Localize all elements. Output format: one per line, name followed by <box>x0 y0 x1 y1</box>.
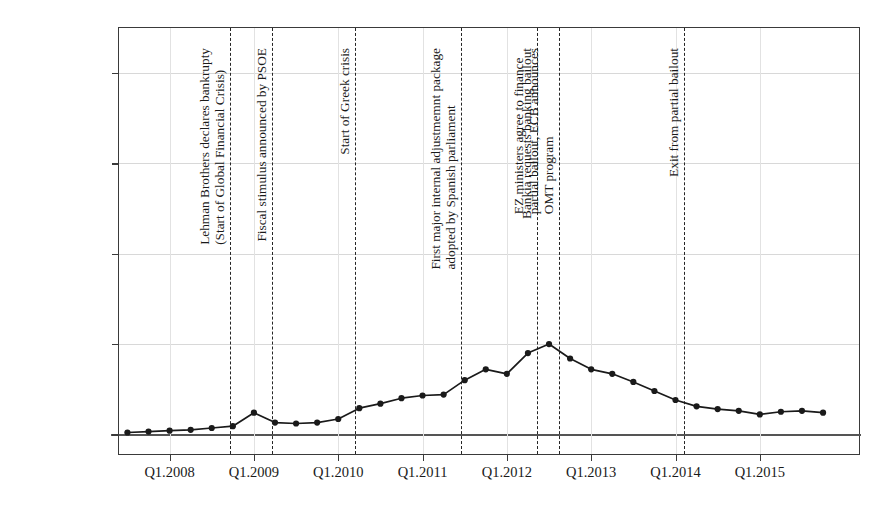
y-axis-title: Interest rate differentials (% per annum… <box>0 0 62 470</box>
data-point <box>335 416 341 422</box>
data-point <box>462 377 468 383</box>
x-tick-mark <box>170 454 171 461</box>
data-point <box>672 397 678 403</box>
y-tick-mark <box>112 344 119 345</box>
data-point <box>145 429 151 435</box>
x-tick-label: Q1.2012 <box>482 464 532 481</box>
chart-figure: Interest rate differentials (% per annum… <box>0 0 880 519</box>
x-tick-mark <box>423 454 424 461</box>
data-point <box>356 405 362 411</box>
data-point <box>419 392 425 398</box>
data-point <box>293 420 299 426</box>
y-tick-mark <box>112 73 119 74</box>
x-tick-label: Q1.2014 <box>650 464 700 481</box>
y-tick-mark <box>112 434 119 435</box>
data-point <box>651 388 657 394</box>
data-point <box>546 341 552 347</box>
x-tick-label: Q1.2008 <box>144 464 194 481</box>
data-point <box>757 411 763 417</box>
data-point <box>715 406 721 412</box>
data-point <box>230 423 236 429</box>
data-point <box>778 409 784 415</box>
x-tick-mark <box>676 454 677 461</box>
data-point <box>820 410 826 416</box>
data-point <box>124 429 130 435</box>
x-tick-mark <box>507 454 508 461</box>
data-point <box>736 408 742 414</box>
data-point <box>525 350 531 356</box>
data-point <box>398 395 404 401</box>
data-point <box>588 366 594 372</box>
data-point <box>609 371 615 377</box>
x-tick-mark <box>760 454 761 461</box>
data-series <box>119 28 861 456</box>
data-point <box>209 425 215 431</box>
data-point <box>630 379 636 385</box>
data-point <box>377 401 383 407</box>
x-tick-label: Q1.2009 <box>229 464 279 481</box>
data-point <box>188 427 194 433</box>
y-tick-mark <box>112 163 119 164</box>
x-tick-label: Q1.2011 <box>398 464 448 481</box>
data-point <box>504 371 510 377</box>
data-point <box>693 403 699 409</box>
data-point <box>166 428 172 434</box>
data-point <box>314 419 320 425</box>
x-tick-mark <box>254 454 255 461</box>
x-tick-label: Q1.2015 <box>735 464 785 481</box>
x-tick-mark <box>591 454 592 461</box>
data-point <box>483 366 489 372</box>
data-point <box>272 419 278 425</box>
series-line <box>127 344 823 432</box>
data-point <box>441 392 447 398</box>
x-tick-label: Q1.2010 <box>313 464 363 481</box>
plot-area: Lehman Brothers declares bankrupty(Start… <box>118 27 860 455</box>
y-tick-mark <box>112 254 119 255</box>
x-tick-mark <box>338 454 339 461</box>
x-tick-label: Q1.2013 <box>566 464 616 481</box>
data-point <box>567 355 573 361</box>
data-point <box>251 410 257 416</box>
data-point <box>799 408 805 414</box>
